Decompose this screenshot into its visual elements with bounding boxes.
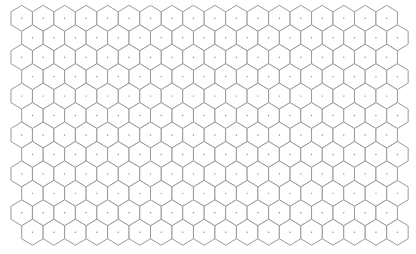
center-dot-icon <box>257 57 258 58</box>
center-dot-icon <box>343 134 344 135</box>
center-dot-icon <box>246 232 247 233</box>
center-dot-icon <box>289 232 290 233</box>
center-dot-icon <box>311 76 312 77</box>
center-dot-icon <box>161 115 162 116</box>
center-dot-icon <box>64 18 65 19</box>
center-dot-icon <box>171 212 172 213</box>
center-dot-icon <box>311 37 312 38</box>
center-dot-icon <box>236 212 237 213</box>
center-dot-icon <box>64 95 65 96</box>
center-dot-icon <box>268 154 269 155</box>
center-dot-icon <box>171 18 172 19</box>
center-dot-icon <box>150 173 151 174</box>
center-dot-icon <box>107 173 108 174</box>
center-dot-icon <box>322 95 323 96</box>
center-dot-icon <box>332 193 333 194</box>
center-dot-icon <box>21 173 22 174</box>
center-dot-icon <box>311 193 312 194</box>
center-dot-icon <box>32 76 33 77</box>
center-dot-icon <box>214 212 215 213</box>
center-dot-icon <box>386 18 387 19</box>
center-dot-icon <box>118 154 119 155</box>
center-dot-icon <box>53 37 54 38</box>
center-dot-icon <box>118 37 119 38</box>
center-dot-icon <box>332 76 333 77</box>
center-dot-icon <box>289 154 290 155</box>
center-dot-icon <box>203 193 204 194</box>
center-dot-icon <box>128 212 129 213</box>
center-dot-icon <box>365 95 366 96</box>
center-dot-icon <box>300 134 301 135</box>
center-dot-icon <box>128 18 129 19</box>
center-dot-icon <box>397 37 398 38</box>
center-dot-icon <box>300 18 301 19</box>
center-dot-icon <box>365 57 366 58</box>
center-dot-icon <box>42 134 43 135</box>
center-dot-icon <box>161 76 162 77</box>
center-dot-icon <box>311 115 312 116</box>
center-dot-icon <box>386 173 387 174</box>
center-dot-icon <box>375 232 376 233</box>
center-dot-icon <box>128 95 129 96</box>
center-dot-icon <box>42 95 43 96</box>
center-dot-icon <box>257 95 258 96</box>
center-dot-icon <box>32 232 33 233</box>
center-dot-icon <box>203 115 204 116</box>
center-dot-icon <box>85 134 86 135</box>
center-dot-icon <box>257 173 258 174</box>
center-dot-icon <box>397 193 398 194</box>
center-dot-icon <box>246 154 247 155</box>
center-dot-icon <box>64 134 65 135</box>
center-dot-icon <box>53 115 54 116</box>
center-dot-icon <box>96 232 97 233</box>
center-dot-icon <box>107 95 108 96</box>
center-dot-icon <box>332 232 333 233</box>
center-dot-icon <box>268 193 269 194</box>
center-dot-icon <box>64 173 65 174</box>
center-dot-icon <box>182 37 183 38</box>
center-dot-icon <box>182 115 183 116</box>
center-dot-icon <box>85 18 86 19</box>
center-dot-icon <box>332 154 333 155</box>
center-dot-icon <box>279 95 280 96</box>
center-dot-icon <box>375 115 376 116</box>
center-dot-icon <box>85 212 86 213</box>
center-dot-icon <box>279 18 280 19</box>
center-dot-icon <box>214 173 215 174</box>
center-dot-icon <box>161 232 162 233</box>
center-dot-icon <box>182 76 183 77</box>
center-dot-icon <box>64 212 65 213</box>
center-dot-icon <box>203 76 204 77</box>
center-dot-icon <box>75 37 76 38</box>
center-dot-icon <box>386 57 387 58</box>
hex-grid <box>0 0 416 254</box>
center-dot-icon <box>171 95 172 96</box>
center-dot-icon <box>343 18 344 19</box>
center-dot-icon <box>375 154 376 155</box>
center-dot-icon <box>150 212 151 213</box>
center-dot-icon <box>161 154 162 155</box>
center-dot-icon <box>32 37 33 38</box>
center-dot-icon <box>365 173 366 174</box>
center-dot-icon <box>118 232 119 233</box>
center-dot-icon <box>322 18 323 19</box>
center-dot-icon <box>128 57 129 58</box>
center-dot-icon <box>139 115 140 116</box>
center-dot-icon <box>75 76 76 77</box>
center-dot-icon <box>139 76 140 77</box>
center-dot-icon <box>214 18 215 19</box>
center-dot-icon <box>268 76 269 77</box>
center-dot-icon <box>268 115 269 116</box>
center-dot-icon <box>257 134 258 135</box>
center-dot-icon <box>75 232 76 233</box>
center-dot-icon <box>289 115 290 116</box>
center-dot-icon <box>107 134 108 135</box>
center-dot-icon <box>225 76 226 77</box>
center-dot-icon <box>118 115 119 116</box>
center-dot-icon <box>246 37 247 38</box>
center-dot-icon <box>354 154 355 155</box>
center-dot-icon <box>225 115 226 116</box>
center-dot-icon <box>225 154 226 155</box>
center-dot-icon <box>171 134 172 135</box>
center-dot-icon <box>96 76 97 77</box>
